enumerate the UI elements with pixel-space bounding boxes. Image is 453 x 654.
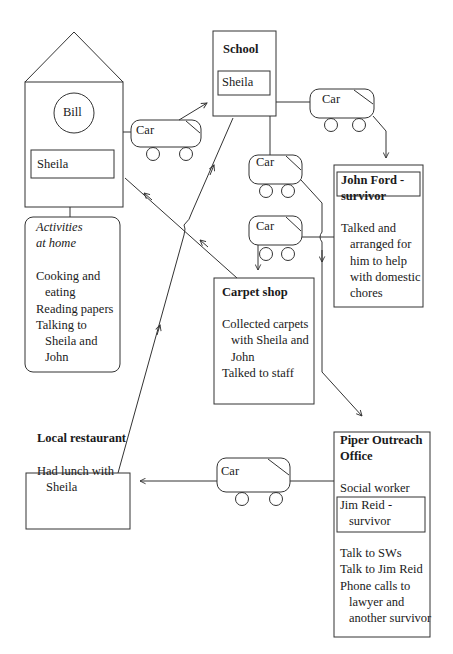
activities-list: Cooking and eating Reading papers Talkin… — [36, 268, 113, 366]
note-item: with domestic — [341, 269, 420, 285]
note-item: with Sheila and — [222, 332, 309, 348]
piper-title-line2: Office — [340, 448, 423, 464]
activity-item: Cooking and — [36, 268, 113, 284]
car-label-piper: Car — [221, 463, 239, 479]
note-item: Talked and — [341, 220, 420, 236]
note-item: John — [222, 349, 309, 365]
car-label-school-john: Car — [322, 91, 340, 107]
piper-role: Social worker — [340, 480, 410, 496]
note-item: lawyer and — [340, 594, 431, 610]
note-item: Collected carpets — [222, 316, 309, 332]
note-item: arranged for — [341, 236, 420, 252]
house-roof — [25, 32, 123, 82]
carpet-shop-notes: Collected carpets with Sheila and John T… — [222, 316, 309, 381]
car-label-school-down: Car — [256, 154, 274, 170]
note-item: Phone calls to — [340, 578, 431, 594]
john-ford-notes: Talked and arranged for him to help with… — [341, 220, 420, 301]
note-item: Talk to Jim Reid — [340, 561, 431, 577]
activity-item: Reading papers — [36, 301, 113, 317]
john-ford-title-line2: survivor — [341, 188, 404, 204]
house-sheila-label: Sheila — [37, 156, 68, 172]
carpet-shop-title: Carpet shop — [222, 284, 288, 300]
note-item: Had lunch with — [37, 463, 114, 479]
school-title: School — [223, 41, 258, 57]
jim-reid-label: Jim Reid - survivor — [340, 497, 392, 530]
piper-outreach-title: Piper Outreach Office — [340, 432, 423, 465]
activity-item: eating — [36, 284, 113, 300]
jim-reid-line2: survivor — [340, 513, 392, 529]
note-item: Sheila — [37, 479, 114, 495]
school-sheila-label: Sheila — [222, 74, 253, 90]
local-restaurant-title: Local restaurant — [37, 430, 126, 446]
activities-title-line2: at home — [36, 235, 83, 251]
note-item: him to help — [341, 253, 420, 269]
jim-reid-line1: Jim Reid - — [340, 497, 392, 513]
piper-title-line1: Piper Outreach — [340, 432, 423, 448]
activity-item: John — [36, 349, 113, 365]
piper-notes: Talk to SWs Talk to Jim Reid Phone calls… — [340, 545, 431, 626]
car-label-home: Car — [136, 122, 154, 138]
note-item: another survivor — [340, 610, 431, 626]
note-item: chores — [341, 285, 420, 301]
car-label-carpet: Car — [256, 218, 274, 234]
local-restaurant-notes: Had lunch with Sheila — [37, 463, 114, 496]
note-item: Talked to staff — [222, 365, 309, 381]
activity-item: Talking to — [36, 317, 113, 333]
activity-item: Sheila and — [36, 333, 113, 349]
note-item: Talk to SWs — [340, 545, 431, 561]
bill-label: Bill — [63, 104, 82, 120]
activities-title: Activities at home — [36, 219, 83, 252]
john-ford-title-line1: John Ford - — [341, 172, 404, 188]
house-body — [25, 82, 123, 207]
john-ford-title: John Ford - survivor — [341, 172, 404, 205]
activities-title-line1: Activities — [36, 219, 83, 235]
